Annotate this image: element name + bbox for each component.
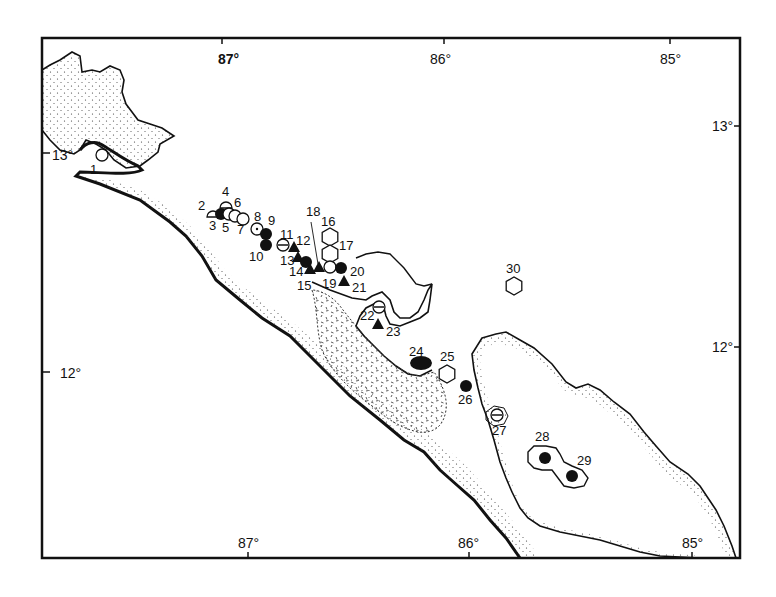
right-axis-label: 13° <box>712 118 733 134</box>
site-label: 5 <box>222 220 229 235</box>
site-label: 24 <box>409 344 423 359</box>
left-axis-label: 13° <box>52 147 73 163</box>
site-label: 30 <box>506 261 520 276</box>
site-label: 6 <box>234 195 241 210</box>
site-label: 7 <box>237 222 244 237</box>
open-circle-icon <box>96 149 108 161</box>
site-label: 10 <box>249 249 263 264</box>
site-label: 12 <box>296 233 310 248</box>
theta-circle-icon <box>491 409 503 421</box>
filled-circle-icon <box>566 470 578 482</box>
filled-triangle-icon <box>338 275 350 286</box>
site-label: 17 <box>339 238 353 253</box>
site-label: 4 <box>222 184 229 199</box>
site-label: 16 <box>321 214 335 229</box>
site-label: 18 <box>306 204 320 219</box>
top-axis-label: 86° <box>430 51 451 67</box>
site-label: 3 <box>209 218 216 233</box>
site-label: 8 <box>254 209 261 224</box>
map-geography <box>42 52 736 558</box>
filled-circle-icon <box>260 228 272 240</box>
bottom-axis-label: 87° <box>238 535 259 551</box>
filled-circle-icon <box>335 262 347 274</box>
site-label: 15 <box>297 278 311 293</box>
site-label: 27 <box>492 423 506 438</box>
bottom-axis-label: 85° <box>682 535 703 551</box>
bottom-axis-label: 86° <box>458 535 479 551</box>
hexagon-icon <box>322 228 338 246</box>
top-axis-label: 85° <box>660 51 681 67</box>
site-label: 29 <box>577 453 591 468</box>
site-label: 22 <box>360 308 374 323</box>
site-label: 19 <box>322 276 336 291</box>
site-label: 20 <box>350 264 364 279</box>
site-label: 1 <box>90 162 97 177</box>
site-label: 9 <box>268 213 275 228</box>
open-circle-icon <box>324 261 336 273</box>
open-half-circle-icon <box>220 202 232 208</box>
site-label: 2 <box>198 198 205 213</box>
site-label: 23 <box>386 324 400 339</box>
filled-triangle-icon <box>313 261 325 272</box>
filled-circle-icon <box>539 452 551 464</box>
right-axis-label: 12° <box>712 339 733 355</box>
hexagon-icon <box>322 245 338 263</box>
site-18-leader-line <box>311 222 318 264</box>
lake-managua-north <box>356 252 432 286</box>
left-axis-label: 12° <box>60 365 81 381</box>
site-label: 28 <box>535 429 549 444</box>
map-canvas: 87°86°85°87°86°85°13°12°13°12° 123456789… <box>0 0 776 597</box>
site-label: 14 <box>289 264 303 279</box>
hexagon-icon <box>506 277 522 295</box>
hexagon-icon <box>439 365 455 383</box>
filled-circle-icon <box>460 380 472 392</box>
site-label: 25 <box>440 349 454 364</box>
site-label: 26 <box>458 392 472 407</box>
site-label: 11 <box>280 227 294 242</box>
top-axis-label: 87° <box>218 51 239 67</box>
theta-circle-icon <box>373 301 385 313</box>
site-label: 21 <box>352 280 366 295</box>
